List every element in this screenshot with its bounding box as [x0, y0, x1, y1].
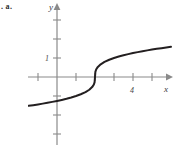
figure-page: . a. 4 x — [0, 0, 173, 145]
x-axis-group: 4 x — [28, 73, 173, 95]
y-axis-label: y — [48, 2, 53, 12]
x-axis-arrowhead — [166, 74, 173, 81]
graph-figure: 4 x 1 y — [28, 0, 173, 145]
x-tick-label-4: 4 — [130, 86, 134, 95]
y-axis-arrowhead — [54, 3, 61, 10]
function-curve — [29, 47, 172, 106]
y-tick-label-1: 1 — [45, 54, 49, 63]
x-axis-label: x — [163, 84, 168, 94]
y-axis-group: 1 y — [45, 2, 61, 145]
coordinate-plane-svg: 4 x 1 y — [28, 0, 173, 145]
problem-item-marker: . a. — [1, 2, 12, 12]
